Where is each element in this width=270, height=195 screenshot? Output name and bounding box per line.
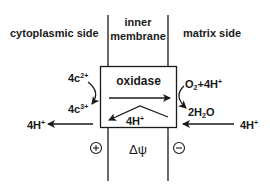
inner-membrane-line1: inner [108,15,168,29]
box-proton-charge: + [140,115,144,122]
box-proton-label: 4H+ [126,115,144,127]
inner-membrane-line2: membrane [108,29,168,43]
cytochrome-c-oxidized-count: 4c [68,103,80,115]
cytochrome-c-oxidized-charge: 3+ [80,103,88,110]
oxygen-protons-label: O2+4H+ [185,78,222,91]
proton-in-label: 4H+ [240,119,258,131]
proton-out-label: 4H+ [27,119,45,131]
water-prefix: 2H [188,106,202,118]
inner-membrane-label: inner membrane [108,15,168,43]
cytochrome-c-reduced-label: 4c2+ [68,72,88,84]
cytochrome-c-oxidized-label: 4c3+ [68,103,88,115]
cytoplasmic-side-label: cytoplasmic side [10,28,99,39]
proton-in-charge: + [254,119,258,126]
water-label: 2H2O [188,107,215,119]
oxygen-symbol: O [185,78,194,90]
cytochrome-c-reduced-count: 4c [68,72,80,84]
cytochrome-c-reduced-charge: 2+ [80,72,88,79]
cytochrome-oxidation-arrow [88,82,96,104]
oxygen-protons: +4H [197,78,218,90]
oxygen-protons-charge: + [218,78,222,85]
box-proton-count: 4H [126,115,140,127]
proton-out-charge: + [41,119,45,126]
oxidase-label: oxidase [101,75,176,87]
proton-in-count: 4H [240,119,254,131]
water-suffix: O [206,106,215,118]
matrix-side-label: matrix side [183,28,241,39]
membrane-potential-label: Δψ [108,143,168,156]
proton-out-count: 4H [27,119,41,131]
